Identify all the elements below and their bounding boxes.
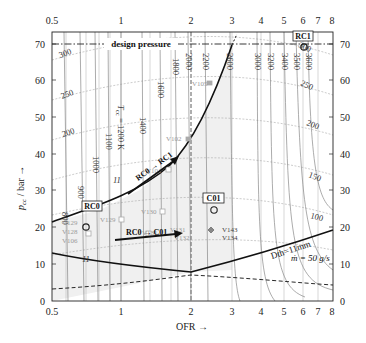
svg-text:1: 1 — [119, 306, 124, 317]
svg-text:V129: V129 — [62, 219, 78, 227]
rc0-label: RC0 — [84, 202, 100, 211]
svg-text:0: 0 — [40, 296, 45, 307]
svg-text:4: 4 — [259, 306, 264, 317]
svg-text:1100: 1100 — [104, 133, 114, 150]
svg-text:2000: 2000 — [184, 53, 194, 70]
svg-text:0.5: 0.5 — [46, 15, 59, 26]
svg-text:10: 10 — [35, 259, 45, 270]
svg-text:3400: 3400 — [280, 53, 290, 70]
svg-text:40: 40 — [340, 149, 350, 160]
svg-text:1400: 1400 — [138, 117, 148, 134]
dth-inline-label-upper: 11 — [113, 175, 121, 185]
svg-text:60: 60 — [340, 75, 350, 86]
svg-text:70: 70 — [35, 39, 45, 50]
svg-text:250: 250 — [299, 78, 315, 92]
svg-text:60: 60 — [35, 75, 45, 86]
svg-text:5: 5 — [282, 15, 287, 26]
x-ticks-bottom: 0.5 1 2 3 4 5 6 7 8 — [46, 306, 335, 317]
svg-text:900: 900 — [76, 186, 86, 199]
svg-text:V143: V143 — [222, 226, 238, 234]
svg-text:3: 3 — [230, 15, 235, 26]
dth-11mm-curve-extension — [232, 34, 237, 45]
svg-text:V106: V106 — [62, 237, 78, 245]
svg-text:3000: 3000 — [253, 53, 263, 70]
c01-label: C01 — [207, 194, 221, 203]
mdot-label: ṁ = 50 g/s — [291, 253, 330, 263]
svg-text:0: 0 — [340, 296, 345, 307]
svg-text:3600: 3600 — [304, 53, 314, 70]
svg-text:250: 250 — [59, 87, 74, 101]
svg-text:0.5: 0.5 — [46, 306, 59, 317]
svg-text:6: 6 — [301, 306, 306, 317]
svg-text:200: 200 — [305, 117, 320, 131]
svg-text:2: 2 — [189, 15, 194, 26]
tcc-label: Tcc = 1200 K — [114, 105, 126, 151]
svg-text:50: 50 — [35, 112, 45, 123]
svg-text:7: 7 — [316, 306, 321, 317]
svg-text:4: 4 — [259, 15, 264, 26]
svg-text:1800: 1800 — [171, 58, 181, 75]
svg-text:200: 200 — [61, 125, 76, 138]
svg-text:70: 70 — [340, 39, 350, 50]
svg-text:20: 20 — [340, 222, 350, 233]
svg-text:8: 8 — [330, 15, 335, 26]
svg-text:1600: 1600 — [156, 81, 166, 98]
svg-text:3500: 3500 — [292, 53, 302, 70]
design-pressure-label: design pressure — [111, 39, 170, 49]
y-ticks-right: 0 10 20 30 40 50 60 70 — [340, 39, 350, 307]
svg-text:V105: V105 — [192, 80, 208, 88]
svg-text:30: 30 — [35, 185, 45, 196]
dth-inline-label-lower: 11 — [82, 254, 90, 264]
svg-text:V129: V129 — [100, 216, 116, 224]
svg-text:6: 6 — [301, 15, 306, 26]
svg-text:300: 300 — [57, 46, 72, 60]
svg-text:2600: 2600 — [225, 53, 235, 70]
svg-text:2200: 2200 — [201, 53, 211, 70]
svg-text:40: 40 — [35, 149, 45, 160]
svg-text:7: 7 — [316, 15, 321, 26]
svg-text:3200: 3200 — [266, 53, 276, 70]
chart-svg: design pressure 800 900 1000 1100 1400 1… — [0, 0, 366, 343]
svg-text:V102: V102 — [166, 135, 182, 143]
y-ticks-left: 0 10 20 30 40 50 60 70 — [35, 39, 45, 307]
x-axis-title: OFR → — [176, 321, 208, 332]
y-axis-title: pcc / bar → — [15, 166, 28, 211]
svg-text:5: 5 — [282, 306, 287, 317]
arrow-c01-label: RC0 → C01 — [126, 228, 167, 237]
svg-text:V128: V128 — [62, 228, 78, 236]
svg-text:2: 2 — [189, 306, 194, 317]
x-ticks-top: 0.5 1 2 3 4 5 6 7 8 — [46, 15, 335, 26]
svg-text:V130: V130 — [141, 208, 157, 216]
svg-text:10: 10 — [340, 259, 350, 270]
v143-v134-labels: V143 V134 — [222, 226, 238, 242]
svg-text:50: 50 — [340, 112, 350, 123]
svg-text:1: 1 — [119, 15, 124, 26]
svg-text:1000: 1000 — [91, 156, 101, 173]
svg-text:150: 150 — [307, 169, 322, 183]
svg-text:8: 8 — [330, 306, 335, 317]
svg-text:100: 100 — [309, 210, 324, 223]
svg-text:20: 20 — [35, 222, 45, 233]
svg-text:30: 30 — [340, 185, 350, 196]
rc1-label: RC1 — [295, 32, 311, 41]
svg-text:V134: V134 — [222, 234, 238, 242]
svg-text:3: 3 — [230, 306, 235, 317]
